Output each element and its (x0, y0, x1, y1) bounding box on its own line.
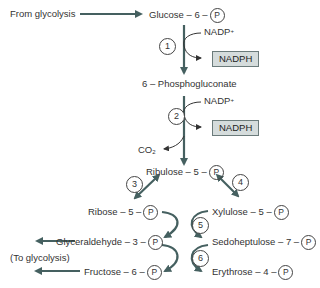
from-glycolysis-label: From glycolysis (10, 8, 75, 20)
step-2-marker: 2 (168, 108, 185, 125)
phosphogluconate-node: 6 – Phosphogluconate (142, 78, 237, 90)
ribulose-5-phosphate-node: Ribulose – 5 –P (146, 165, 224, 180)
xylulose-5-phosphate-node: Xylulose – 5 –P (212, 205, 289, 220)
fructose-6-phosphate-node: Fructose – 6 –P (84, 265, 162, 280)
nadp-plus-label-2: NADP+ (204, 95, 234, 107)
step-5-marker: 5 (192, 217, 209, 234)
phosphate-circle: P (278, 265, 293, 280)
to-glycolysis-label: (To glycolysis) (10, 252, 70, 264)
phosphate-circle: P (209, 165, 224, 180)
nadph-box-1: NADPH (212, 51, 259, 67)
phosphate-circle: P (274, 205, 289, 220)
phosphate-circle: P (143, 205, 158, 220)
nadp-plus-label-1: NADP+ (204, 26, 234, 38)
step-6-marker: 6 (192, 250, 209, 267)
phosphate-circle: P (147, 265, 162, 280)
step-1-marker: 1 (159, 38, 176, 55)
phosphate-circle: P (210, 8, 225, 23)
step-3-marker: 3 (126, 176, 143, 193)
phosphate-circle: P (148, 235, 163, 250)
erythrose-4-phosphate-node: Erythrose – 4 –P (212, 265, 293, 280)
ribose-5-phosphate-node: Ribose – 5 –P (88, 205, 158, 220)
glucose-6-phosphate-node: Glucose – 6 –P (149, 8, 225, 23)
nadph-box-2: NADPH (212, 120, 259, 136)
sedoheptulose-7-phosphate-node: Sedoheptulose – 7 –P (212, 235, 316, 250)
step-4-marker: 4 (232, 174, 249, 191)
phosphate-circle: P (301, 235, 316, 250)
co2-label: CO2 (138, 144, 156, 156)
glyceraldehyde-3-phosphate-node: Glyceraldehyde – 3 –P (56, 235, 163, 250)
